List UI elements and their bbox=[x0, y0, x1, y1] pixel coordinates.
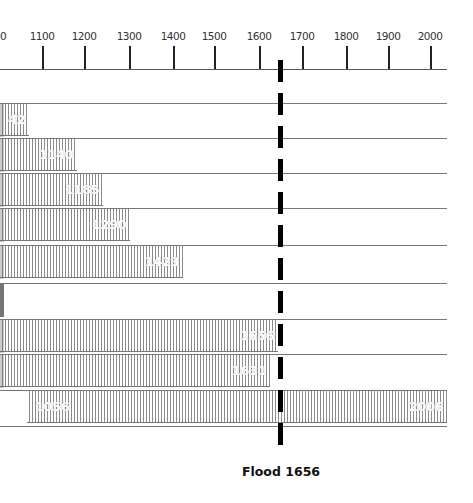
tick-mark bbox=[214, 46, 216, 70]
bar-end-label: 2006 bbox=[409, 399, 443, 414]
row-left-edge bbox=[0, 174, 4, 207]
tick-label: 1700 bbox=[290, 30, 315, 42]
bar-end-label: 1656 bbox=[240, 328, 274, 343]
tick-mark bbox=[388, 46, 390, 70]
flood-dash bbox=[278, 258, 283, 280]
flood-dash bbox=[278, 291, 283, 313]
flood-dash bbox=[278, 60, 283, 82]
flood-dash bbox=[278, 390, 283, 412]
flood-dash bbox=[278, 93, 283, 115]
tick-mark bbox=[173, 46, 175, 70]
timeline-bar: 1631 bbox=[0, 354, 270, 387]
flood-label: Flood 1656 bbox=[242, 464, 320, 479]
bar-end-label: 1185 bbox=[65, 182, 99, 197]
bar-end-label: 1423 bbox=[145, 254, 179, 269]
bar-start-label: 1056 bbox=[35, 399, 69, 414]
timeline-chart: 0011001200130014001500160017001800190020… bbox=[0, 0, 473, 503]
timeline-bar: 1140 bbox=[0, 138, 77, 171]
tick-label: 1300 bbox=[117, 30, 142, 42]
flood-dash bbox=[278, 159, 283, 181]
tick-label: 1800 bbox=[334, 30, 359, 42]
tick-mark bbox=[259, 46, 261, 70]
timeline-bar: 10562006 bbox=[27, 390, 447, 423]
tick-label: 00 bbox=[0, 30, 6, 42]
tick-label: 1900 bbox=[376, 30, 401, 42]
timeline-bar: 1185 bbox=[0, 173, 103, 206]
timeline-bar: 42 bbox=[0, 103, 29, 136]
tick-label: 1100 bbox=[30, 30, 55, 42]
tick-mark bbox=[346, 46, 348, 70]
row-divider bbox=[0, 426, 447, 427]
bar-end-label: 1140 bbox=[39, 147, 73, 162]
tick-label: 1400 bbox=[161, 30, 186, 42]
flood-dash bbox=[278, 324, 283, 346]
tick-label: 1200 bbox=[72, 30, 97, 42]
bar-end-label: 42 bbox=[8, 112, 25, 127]
row-left-edge bbox=[0, 246, 4, 279]
row-left-edge bbox=[0, 104, 4, 137]
tick-mark bbox=[42, 46, 44, 70]
row-left-edge bbox=[0, 355, 4, 388]
tick-label: 1500 bbox=[202, 30, 227, 42]
tick-label: 2000 bbox=[418, 30, 443, 42]
tick-mark bbox=[129, 46, 131, 70]
tick-mark bbox=[302, 46, 304, 70]
flood-dash bbox=[278, 192, 283, 214]
flood-dash bbox=[278, 225, 283, 247]
row-left-edge bbox=[0, 209, 4, 242]
row-left-edge bbox=[0, 284, 4, 317]
flood-dash bbox=[278, 357, 283, 379]
row-divider bbox=[0, 103, 447, 104]
row-left-edge bbox=[0, 320, 4, 353]
timeline-bar: 1656 bbox=[0, 319, 278, 352]
row-left-edge bbox=[0, 139, 4, 172]
tick-label: 1600 bbox=[247, 30, 272, 42]
bar-end-label: 1631 bbox=[232, 363, 266, 378]
flood-dash bbox=[278, 126, 283, 148]
row-divider bbox=[0, 283, 447, 284]
timeline-bar: 1290 bbox=[0, 208, 130, 241]
x-axis-line bbox=[0, 69, 447, 70]
timeline-bar: 1423 bbox=[0, 245, 183, 278]
bar-end-label: 1290 bbox=[92, 217, 126, 232]
tick-mark bbox=[84, 46, 86, 70]
flood-dash bbox=[278, 423, 283, 445]
tick-mark bbox=[430, 46, 432, 70]
